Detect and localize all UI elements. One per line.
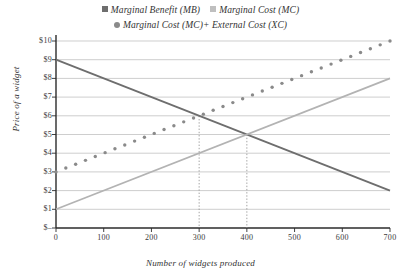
y-axis-tick-label: $3 xyxy=(26,167,52,176)
legend-label-marginal-cost: Marginal Cost (MC) xyxy=(219,4,299,17)
x-axis-tick-label: 300 xyxy=(182,233,216,242)
series-dot xyxy=(241,97,244,100)
series-dot xyxy=(221,105,224,108)
series-dot xyxy=(64,166,67,169)
series-dot xyxy=(113,147,116,150)
series-dot xyxy=(84,159,87,162)
y-axis-tick-label: $5 xyxy=(26,130,52,139)
x-axis-tick-label: 700 xyxy=(373,233,401,242)
series-dot xyxy=(270,86,273,89)
y-axis-tick-label: $7 xyxy=(26,92,52,101)
series-dot xyxy=(172,124,175,127)
series-dot xyxy=(378,43,381,46)
legend-row-2: Marginal Cost (MC)+ External Cost (XC) xyxy=(0,17,401,33)
series-dot xyxy=(349,55,352,58)
y-axis-tick-label: $1 xyxy=(26,204,52,213)
legend-swatch-icon-marginal-plus-external-cost xyxy=(114,22,120,28)
series-line-marginal-benefit-mb xyxy=(56,60,390,191)
y-axis-tick-label: $9 xyxy=(26,55,52,64)
series-dot xyxy=(369,47,372,50)
legend-swatch-icon-marginal-benefit xyxy=(102,6,108,12)
legend-label-marginal-plus-external-cost: Marginal Cost (MC)+ External Cost (XC) xyxy=(123,19,287,32)
series-dot xyxy=(339,59,342,62)
legend-entry-marginal-cost: Marginal Cost (MC) xyxy=(210,2,299,17)
y-axis-tick-label: $– xyxy=(26,223,52,232)
y-axis-tick-label: $10 xyxy=(26,36,52,45)
series-dot xyxy=(133,139,136,142)
series-dot xyxy=(211,109,214,112)
x-axis-title: Number of widgets produced xyxy=(0,258,401,268)
x-axis-tick-label: 0 xyxy=(39,233,73,242)
series-dot xyxy=(182,120,185,123)
series-dot xyxy=(143,136,146,139)
chart-legend: Marginal Benefit (MB) Marginal Cost (MC)… xyxy=(0,1,401,32)
series-dot xyxy=(300,74,303,77)
series-dot xyxy=(123,143,126,146)
series-dot xyxy=(54,170,57,173)
x-axis-tick-label: 600 xyxy=(325,233,359,242)
series-dot xyxy=(231,101,234,104)
x-axis-tick-label: 400 xyxy=(230,233,264,242)
legend-label-marginal-benefit: Marginal Benefit (MB) xyxy=(111,4,200,17)
series-dot xyxy=(290,78,293,81)
series-dot xyxy=(202,112,205,115)
y-axis-tick-label: $4 xyxy=(26,148,52,157)
y-axis-tick-label: $2 xyxy=(26,186,52,195)
legend-entry-marginal-plus-external-cost: Marginal Cost (MC)+ External Cost (XC) xyxy=(114,18,287,33)
legend-entry-marginal-benefit: Marginal Benefit (MB) xyxy=(102,2,200,17)
y-axis-title: Price of a widget xyxy=(11,49,21,149)
series-dot xyxy=(74,163,77,166)
legend-row-1: Marginal Benefit (MB) Marginal Cost (MC) xyxy=(0,1,401,17)
economics-chart: Marginal Benefit (MB) Marginal Cost (MC)… xyxy=(0,0,401,279)
x-axis-tick-label: 200 xyxy=(134,233,168,242)
series-dot xyxy=(94,155,97,158)
series-dot xyxy=(261,89,264,92)
series-dot xyxy=(388,39,391,42)
series-dot xyxy=(162,128,165,131)
series-dot xyxy=(192,116,195,119)
series-dot xyxy=(329,62,332,65)
series-dot xyxy=(103,151,106,154)
y-axis-tick-label: $8 xyxy=(26,73,52,82)
series-dot xyxy=(153,132,156,135)
series-dot xyxy=(280,82,283,85)
series-dot xyxy=(320,66,323,69)
legend-swatch-icon-marginal-cost xyxy=(210,6,216,12)
series-dot xyxy=(310,70,313,73)
series-dot xyxy=(359,51,362,54)
series-dot xyxy=(251,93,254,96)
x-axis-tick-label: 100 xyxy=(87,233,121,242)
series-line-marginal-cost-mc xyxy=(56,78,390,209)
x-axis-tick-label: 500 xyxy=(278,233,312,242)
y-axis-tick-label: $6 xyxy=(26,111,52,120)
